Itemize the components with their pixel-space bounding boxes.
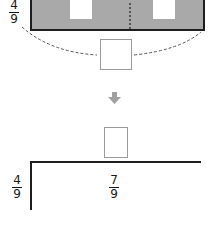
answer-box-top[interactable] bbox=[100, 39, 132, 70]
dividend-denominator: 9 bbox=[110, 189, 118, 200]
dividend-fraction: 7 9 bbox=[109, 175, 119, 200]
division-bracket-side bbox=[30, 162, 32, 210]
answer-box-quotient[interactable] bbox=[104, 127, 128, 158]
divisor-fraction: 4 9 bbox=[12, 175, 22, 200]
divisor-numerator: 4 bbox=[13, 175, 21, 186]
divisor-denominator: 9 bbox=[13, 189, 21, 200]
dividend-numerator: 7 bbox=[110, 175, 118, 186]
down-arrow-icon bbox=[108, 92, 121, 104]
division-bracket-top bbox=[30, 161, 201, 163]
